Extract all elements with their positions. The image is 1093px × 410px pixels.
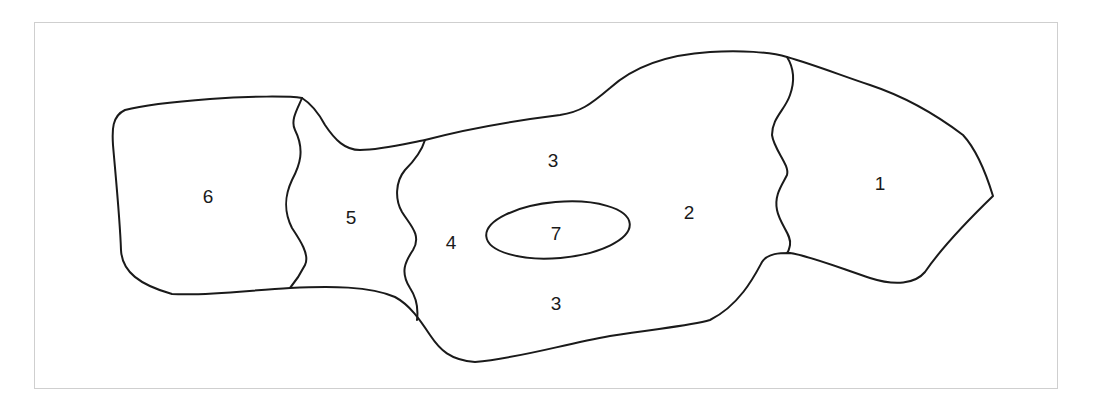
region-diagram <box>0 0 1093 410</box>
region-label-2: 2 <box>684 203 695 222</box>
region-label-4: 4 <box>446 233 457 252</box>
boundary-6-5 <box>286 98 306 288</box>
region-label-3-top: 3 <box>548 151 559 170</box>
region-label-5: 5 <box>346 208 357 227</box>
outer-outline <box>113 51 993 362</box>
region-label-6: 6 <box>203 187 214 206</box>
boundary-5-4 <box>397 140 425 320</box>
region-label-7: 7 <box>551 224 562 243</box>
region-label-1: 1 <box>875 174 886 193</box>
region-label-3-bottom: 3 <box>551 294 562 313</box>
boundary-2-1 <box>772 57 793 253</box>
